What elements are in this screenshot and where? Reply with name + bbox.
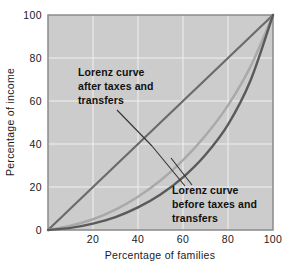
before-taxes-line-1: Lorenz curve: [172, 184, 239, 196]
y-tick-label-80: 80: [30, 52, 42, 64]
y-tick-label-20: 20: [30, 181, 42, 193]
x-tick-label-40: 40: [132, 233, 144, 245]
after-taxes-line-2: after taxes and: [78, 80, 154, 92]
y-tick-label-100: 100: [23, 9, 42, 21]
before-taxes-line-2: before taxes and: [172, 198, 257, 210]
after-taxes-line-1: Lorenz curve: [78, 66, 145, 78]
after-taxes-line-3: transfers: [78, 94, 124, 106]
lorenz-curve-chart: 020406080100 20406080100 Percentage of f…: [0, 0, 288, 272]
y-tick-label-60: 60: [30, 95, 42, 107]
y-tick-label-0: 0: [36, 224, 42, 236]
y-axis-title: Percentage of income: [4, 68, 16, 176]
x-axis-title: Percentage of families: [105, 249, 216, 261]
chart-svg: 020406080100 20406080100 Percentage of f…: [0, 0, 288, 272]
before-taxes-line-3: transfers: [172, 212, 218, 224]
x-tick-label-60: 60: [177, 233, 189, 245]
x-tick-label-20: 20: [87, 233, 99, 245]
x-tick-label-100: 100: [264, 233, 283, 245]
y-tick-label-40: 40: [30, 138, 42, 150]
x-tick-label-80: 80: [222, 233, 234, 245]
